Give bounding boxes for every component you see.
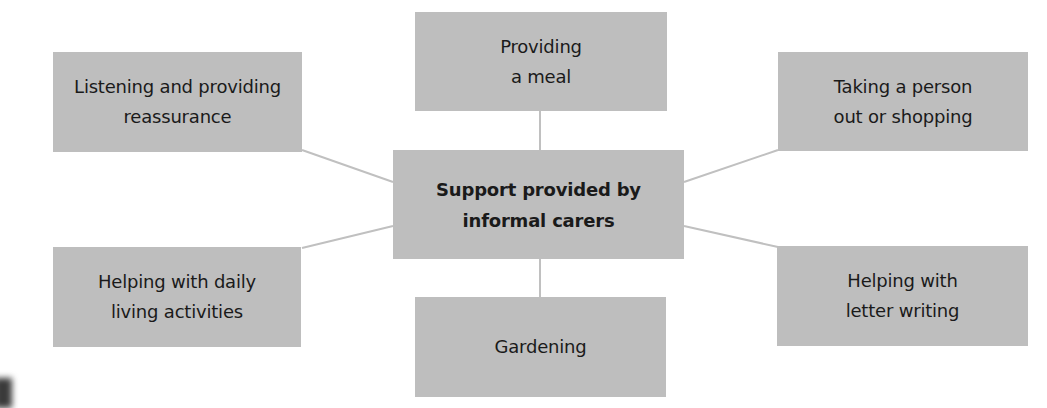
connector-bottom-right xyxy=(684,226,778,247)
node-label: Listening and providing reassurance xyxy=(74,72,281,132)
node-listening-reassurance: Listening and providing reassurance xyxy=(53,52,302,152)
node-daily-living: Helping with daily living activities xyxy=(53,247,301,347)
node-gardening: Gardening xyxy=(415,297,666,397)
node-label: Providing a meal xyxy=(500,32,582,92)
page-edge-marker xyxy=(0,378,12,408)
node-letter-writing: Helping with letter writing xyxy=(777,246,1028,346)
connector-top-left xyxy=(302,150,393,182)
connector-top-right xyxy=(684,150,778,182)
node-taking-person-out: Taking a person out or shopping xyxy=(778,52,1028,151)
central-node-label: Support provided by informal carers xyxy=(436,174,641,236)
central-node: Support provided by informal carers xyxy=(393,150,684,259)
connector-bottom-left xyxy=(302,226,393,248)
node-label: Gardening xyxy=(494,332,586,362)
node-label: Taking a person out or shopping xyxy=(834,72,973,132)
node-label: Helping with letter writing xyxy=(846,266,960,326)
node-providing-a-meal: Providing a meal xyxy=(415,12,667,111)
node-label: Helping with daily living activities xyxy=(98,267,256,327)
